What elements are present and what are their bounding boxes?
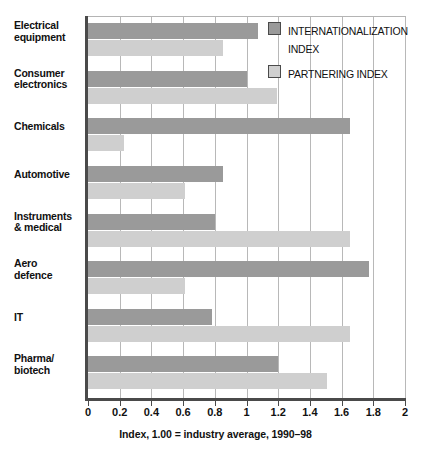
legend-swatch-icon [268,65,281,78]
tick-label: 0.4 [144,406,159,418]
tick-label: 0.6 [175,406,190,418]
category-label-line: defence [14,270,84,282]
chart-legend: INTERNATIONALIZATION INDEXPARTNERING IND… [268,21,428,89]
tick-label: 1.6 [334,406,349,418]
category-label-line: equipment [14,32,84,44]
bar [88,278,185,294]
bar [88,166,223,182]
legend-swatch-icon [268,22,281,35]
legend-label: PARTNERING INDEX [288,68,388,80]
bar [88,231,350,247]
tick-label: 1.8 [366,406,381,418]
bar-group [88,160,405,208]
bar [88,309,212,325]
category-label: Aerodefence [0,258,84,281]
bar [88,373,327,389]
bar [88,71,247,87]
category-label-line: Aero [14,258,84,270]
tick-label: 0.8 [207,406,222,418]
bar [88,118,350,134]
category-label-line: biotech [14,365,84,377]
bar [88,88,277,104]
legend-label: INTERNATIONALIZATION INDEX [288,25,408,55]
category-labels-column: ElectricalequipmentConsumerelectronicsCh… [0,17,86,398]
category-label: Electricalequipment [0,20,84,43]
tick-label: 0 [85,406,91,418]
bar [88,183,185,199]
legend-item[interactable]: PARTNERING INDEX [268,64,428,82]
category-label: Instruments& medical [0,211,84,234]
bar [88,135,124,151]
category-label-line: Electrical [14,20,84,32]
bar [88,356,278,372]
bar [88,261,369,277]
bar-group [88,350,405,398]
category-label: IT [0,312,84,324]
category-label-line: IT [14,312,84,324]
bar-group [88,208,405,256]
tick-label: 1 [243,406,249,418]
bar [88,214,215,230]
tick-label: 1.4 [302,406,317,418]
category-label: Pharma/biotech [0,353,84,376]
category-label: Chemicals [0,121,84,133]
category-label-line: Chemicals [14,121,84,133]
category-label-line: Automotive [14,169,84,181]
tick-label: 1.2 [271,406,286,418]
x-axis-caption: Index, 1.00 = industry average, 1990–98 [0,428,431,440]
category-label: Consumerelectronics [0,68,84,91]
bar-group [88,112,405,160]
category-label-line: & medical [14,222,84,234]
bar-chart: ElectricalequipmentConsumerelectronicsCh… [0,0,431,449]
bar [88,326,350,342]
legend-item[interactable]: INTERNATIONALIZATION INDEX [268,21,428,57]
bar-group [88,255,405,303]
bar [88,23,258,39]
tick-label: 2 [402,406,408,418]
x-axis-ticks: 00.20.40.60.811.21.41.61.82 [0,401,431,421]
tick-label: 0.2 [112,406,127,418]
bar [88,40,223,56]
category-label: Automotive [0,169,84,181]
category-label-line: electronics [14,79,84,91]
bar-group [88,303,405,351]
